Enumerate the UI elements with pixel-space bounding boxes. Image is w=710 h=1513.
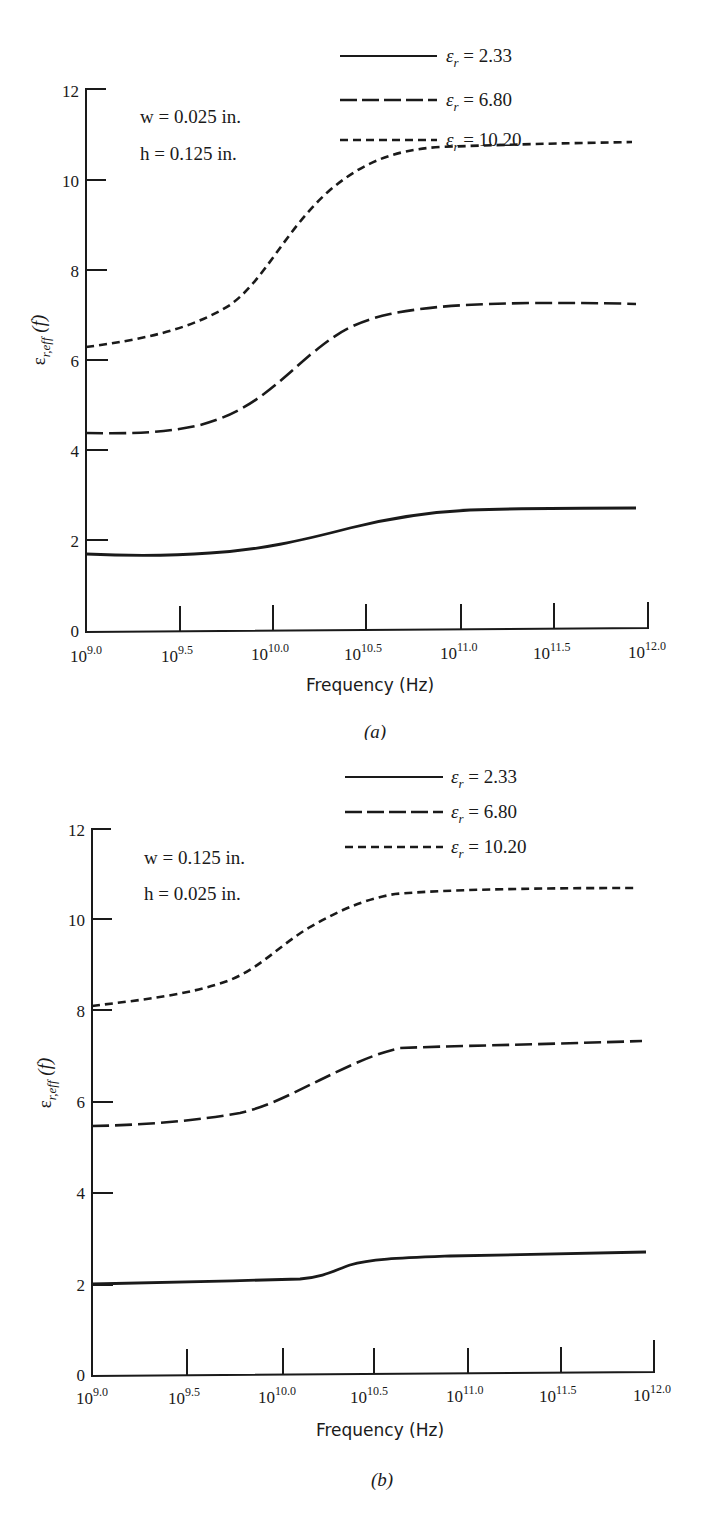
axis-frame xyxy=(92,829,654,1376)
param-w: w = 0.125 in. xyxy=(144,847,245,868)
svg-text:1010.5: 1010.5 xyxy=(344,641,382,664)
figure-caption: (b) xyxy=(371,1469,393,1491)
curve-er-10-20 xyxy=(92,888,638,1006)
svg-text:109.0: 109.0 xyxy=(70,643,102,666)
x-tick-labels: 109.0 109.5 1010.0 1010.5 1011.0 1011.5 … xyxy=(70,639,666,666)
svg-text:1012.0: 1012.0 xyxy=(628,639,666,662)
svg-text:6: 6 xyxy=(77,1093,86,1112)
axes xyxy=(86,89,648,632)
svg-text:1011.5: 1011.5 xyxy=(533,640,571,663)
curve-er-10-20 xyxy=(86,142,632,347)
figure-b: εr = 2.33 εr = 6.80 εr = 10.20 w = 0.125… xyxy=(0,740,710,1513)
param-h: h = 0.125 in. xyxy=(140,143,237,164)
svg-text:109.0: 109.0 xyxy=(76,1385,108,1408)
svg-text:8: 8 xyxy=(71,262,80,281)
svg-text:0: 0 xyxy=(71,622,80,641)
figure-caption: (a) xyxy=(364,721,386,740)
curve-er-6-80 xyxy=(86,303,636,433)
curve-er-6-80 xyxy=(92,1041,642,1126)
x-axis-title: Frequency (Hz) xyxy=(316,1420,444,1440)
svg-text:2: 2 xyxy=(77,1276,86,1295)
axis-frame xyxy=(86,89,648,632)
legend-label-10-20: εr = 10.20 xyxy=(446,129,522,154)
svg-text:1011.0: 1011.0 xyxy=(446,1383,484,1406)
svg-text:6: 6 xyxy=(71,352,80,371)
svg-text:12: 12 xyxy=(68,821,85,840)
curve-er-2-33 xyxy=(92,1252,646,1284)
y-tick-labels: 0 2 4 6 8 10 12 xyxy=(62,82,80,641)
figure-a: εr = 2.33 εr = 6.80 εr = 10.20 w = 0.025… xyxy=(0,0,710,740)
series-curves xyxy=(86,142,636,555)
svg-text:109.5: 109.5 xyxy=(161,643,193,666)
legend-label-6-80: εr = 6.80 xyxy=(451,801,517,826)
series-curves xyxy=(92,888,646,1284)
legend-label-6-80: εr = 6.80 xyxy=(446,89,512,114)
x-tick-labels: 109.0 109.5 1010.0 1010.5 1011.0 1011.5 … xyxy=(76,1382,671,1408)
legend-label-2-33: εr = 2.33 xyxy=(446,45,512,70)
legend: εr = 2.33 εr = 6.80 εr = 10.20 xyxy=(340,45,522,154)
chart-a-svg: εr = 2.33 εr = 6.80 εr = 10.20 w = 0.025… xyxy=(0,0,710,740)
param-w: w = 0.025 in. xyxy=(140,106,241,127)
svg-text:10: 10 xyxy=(62,172,79,191)
y-axis-title: εr,eff (f) xyxy=(34,1058,59,1109)
y-axis-title: εr,eff (f) xyxy=(28,315,53,366)
svg-text:8: 8 xyxy=(77,1002,86,1021)
legend-label-2-33: εr = 2.33 xyxy=(451,766,517,791)
svg-text:1011.0: 1011.0 xyxy=(440,640,478,663)
svg-text:109.5: 109.5 xyxy=(168,1385,200,1408)
svg-text:1012.0: 1012.0 xyxy=(633,1382,671,1405)
svg-text:12: 12 xyxy=(62,82,79,101)
y-tick-labels: 0 2 4 6 8 10 12 xyxy=(68,821,86,1385)
svg-text:4: 4 xyxy=(77,1184,86,1203)
axes xyxy=(92,829,654,1376)
param-h: h = 0.025 in. xyxy=(144,883,241,904)
svg-text:1010.0: 1010.0 xyxy=(258,1384,296,1407)
curve-er-2-33 xyxy=(86,508,636,555)
svg-text:0: 0 xyxy=(77,1366,86,1385)
x-axis-title: Frequency (Hz) xyxy=(306,675,434,695)
svg-text:1010.5: 1010.5 xyxy=(350,1384,388,1407)
legend: εr = 2.33 εr = 6.80 εr = 10.20 xyxy=(345,766,527,861)
svg-text:1011.5: 1011.5 xyxy=(539,1383,577,1406)
svg-text:10: 10 xyxy=(68,911,85,930)
chart-b-svg: εr = 2.33 εr = 6.80 εr = 10.20 w = 0.125… xyxy=(0,740,710,1513)
svg-text:2: 2 xyxy=(71,532,80,551)
svg-text:1010.0: 1010.0 xyxy=(251,641,289,664)
legend-label-10-20: εr = 10.20 xyxy=(451,836,527,861)
svg-text:4: 4 xyxy=(71,442,80,461)
